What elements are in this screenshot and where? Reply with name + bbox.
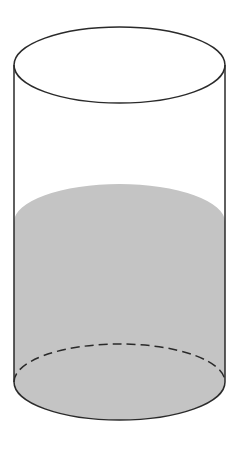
cylinder-diagram [0,0,238,449]
top-rim [14,27,225,103]
cylinder-svg [0,0,238,449]
liquid-fill [14,184,225,420]
